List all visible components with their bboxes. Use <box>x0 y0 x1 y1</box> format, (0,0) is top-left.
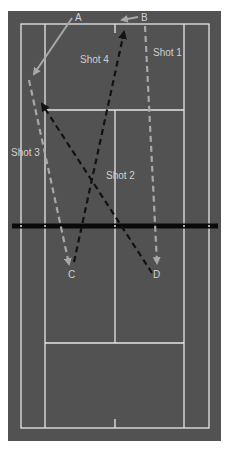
shot-3-label: Shot 3 <box>11 147 40 158</box>
shot-1-label: Shot 1 <box>153 47 182 58</box>
shot-4-label: Shot 4 <box>80 54 109 65</box>
shot-2-label: Shot 2 <box>106 170 135 181</box>
tennis-court-diagram: A B C D Shot 1 Shot 2 Shot 3 Shot 4 <box>0 0 227 449</box>
point-d-label: D <box>153 269 160 280</box>
point-a-label: A <box>75 12 82 23</box>
point-b-label: B <box>141 12 148 23</box>
point-c-label: C <box>68 269 75 280</box>
